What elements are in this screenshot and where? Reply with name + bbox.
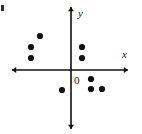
data-point	[88, 76, 94, 82]
data-point	[79, 44, 85, 50]
origin-label: 0	[74, 74, 80, 86]
corner-mark	[1, 5, 4, 11]
data-point	[88, 86, 94, 92]
scatter-plot-figure: x y 0	[0, 0, 142, 134]
data-point	[37, 33, 43, 39]
data-points-group	[28, 33, 105, 93]
y-axis-top-arrowhead	[68, 7, 74, 11]
y-axis-bottom-arrowhead	[68, 125, 74, 129]
data-point	[59, 87, 65, 93]
data-point	[79, 55, 85, 61]
y-axis-label: y	[77, 7, 83, 19]
coordinate-plane-svg: x y 0	[0, 0, 142, 134]
x-axis-label: x	[121, 48, 127, 60]
data-point	[99, 86, 105, 92]
data-point	[28, 55, 34, 61]
x-axis-left-arrowhead	[12, 67, 16, 73]
x-axis-right-arrowhead	[124, 67, 128, 73]
data-point	[28, 44, 34, 50]
